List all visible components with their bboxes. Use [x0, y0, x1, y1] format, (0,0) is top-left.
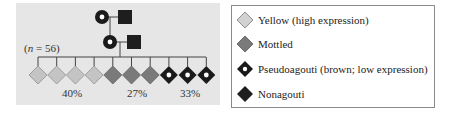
legend-item-pseudoagouti: Pseudoagouti (brown; low expression)	[236, 59, 428, 79]
offspring-mottled-diamond-icon	[104, 66, 122, 84]
nonagouti-diamond-icon	[236, 85, 254, 103]
pedigree-panel: (n = 56) 40% 27% 33%	[16, 3, 220, 105]
gen1-male-nonagouti-symbol	[118, 10, 132, 24]
percent-mottled: 27%	[127, 87, 147, 99]
offspring-mottled-diamond-icon	[123, 66, 141, 84]
offspring-yellow-diamond-icon	[66, 66, 84, 84]
legend-item-yellow: Yellow (high expression)	[236, 10, 369, 30]
legend-item-mottled: Mottled	[236, 34, 293, 54]
offspring-pseudoagouti-diamond-icon	[197, 66, 215, 84]
legend-item-nonagouti: Nonagouti	[236, 84, 304, 104]
offspring-row	[29, 57, 215, 84]
sample-size-label: (n = 56)	[24, 42, 60, 54]
gen2-male-nonagouti-symbol	[127, 35, 141, 49]
yellow-diamond-icon	[236, 11, 254, 29]
gen2-female-pseudoagouti-symbol	[103, 35, 117, 49]
percent-pseudoagouti: 33%	[180, 87, 200, 99]
gen1-female-pseudoagouti-symbol	[95, 10, 109, 24]
offspring-yellow-diamond-icon	[29, 66, 47, 84]
legend: Yellow (high expression) Mottled Pseudoa…	[231, 5, 435, 108]
offspring-pseudoagouti-diamond-icon	[179, 66, 197, 84]
offspring-yellow-diamond-icon	[48, 66, 66, 84]
percent-yellow: 40%	[62, 87, 82, 99]
offspring-pseudoagouti-diamond-icon	[160, 66, 178, 84]
offspring-mottled-diamond-icon	[141, 66, 159, 84]
pseudoagouti-diamond-icon	[236, 60, 254, 78]
mottled-diamond-icon	[236, 35, 254, 53]
offspring-yellow-diamond-icon	[85, 66, 103, 84]
